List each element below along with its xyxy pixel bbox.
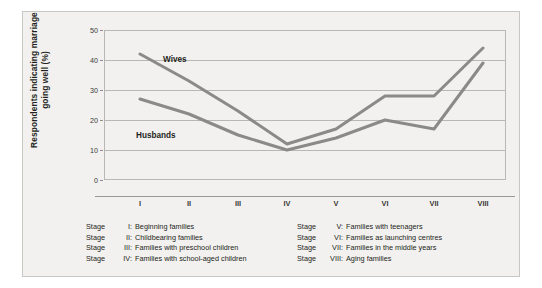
legend-item: StageV:Families with teenagers — [297, 222, 442, 233]
legend-stage-numeral: II: — [112, 233, 132, 244]
legend-item: StageVI:Families as launching centres — [297, 233, 442, 244]
figure-root: Respondents indicating marriage going we… — [0, 0, 542, 288]
legend-item: StageVII:Families in the middle years — [297, 243, 442, 254]
legend-stage-word: Stage — [297, 233, 323, 244]
series-label-wives: Wives — [163, 55, 187, 64]
legend-stage-numeral: VIII: — [323, 254, 343, 265]
legend-stage-numeral: V: — [323, 222, 343, 233]
legend-item: StageII:Childbearing families — [86, 233, 247, 244]
legend-stage-text: Families as launching centres — [343, 233, 442, 244]
legend-stage-word: Stage — [297, 254, 323, 265]
legend-left-column: StageI:Beginning familiesStageII:Childbe… — [86, 222, 247, 264]
legend-item: StageIV:Families with school-aged childr… — [86, 254, 247, 265]
legend-item: StageIII:Families with preschool childre… — [86, 243, 247, 254]
legend-stage-text: Beginning families — [132, 222, 194, 233]
legend-stage-text: Families with preschool children — [132, 243, 238, 254]
series-lines — [0, 0, 542, 288]
legend-stage-numeral: IV: — [112, 254, 132, 265]
legend-stage-numeral: I: — [112, 222, 132, 233]
legend-stage-word: Stage — [86, 222, 112, 233]
legend-right-column: StageV:Families with teenagersStageVI:Fa… — [297, 222, 442, 264]
legend-stage-numeral: III: — [112, 243, 132, 254]
legend-stage-numeral: VII: — [323, 243, 343, 254]
legend-stage-text: Aging families — [343, 254, 391, 265]
legend-stage-word: Stage — [86, 233, 112, 244]
legend-item: StageI:Beginning families — [86, 222, 247, 233]
legend-item: StageVIII:Aging families — [297, 254, 442, 265]
legend-stage-word: Stage — [86, 254, 112, 265]
legend-stage-word: Stage — [297, 243, 323, 254]
legend-stage-word: Stage — [297, 222, 323, 233]
legend-stage-numeral: VI: — [323, 233, 343, 244]
legend-stage-text: Families with school-aged children — [132, 254, 247, 265]
legend-stage-word: Stage — [86, 243, 112, 254]
chart-container: Respondents indicating marriage going we… — [0, 0, 542, 288]
legend-stage-text: Childbearing families — [132, 233, 203, 244]
legend-stage-text: Families in the middle years — [343, 243, 436, 254]
legend-stage-text: Families with teenagers — [343, 222, 423, 233]
series-label-husbands: Husbands — [136, 131, 176, 140]
